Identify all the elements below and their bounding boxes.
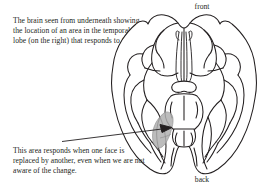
figure-page: The brain seen from underneath showing t… <box>0 0 269 195</box>
optic-chiasm <box>172 81 197 92</box>
caption-bottom: This area responds when one face is repl… <box>13 146 149 177</box>
